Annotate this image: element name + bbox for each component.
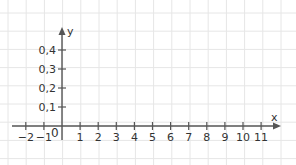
x-tick-label: −1: [36, 131, 52, 144]
x-tick-label: 1: [77, 131, 84, 144]
origin-label: 0: [51, 126, 59, 140]
y-tick-label: 0,1: [39, 101, 57, 114]
x-tick-label: −2: [18, 131, 34, 144]
x-tick-label: 3: [113, 131, 120, 144]
x-tick-label: 11: [254, 131, 268, 144]
y-tick-label: 0,4: [39, 44, 57, 57]
x-tick-label: 9: [221, 131, 228, 144]
x-tick-label: 5: [149, 131, 156, 144]
x-tick-label: 10: [236, 131, 250, 144]
x-tick-label: 4: [131, 131, 138, 144]
x-tick-label: 2: [95, 131, 102, 144]
y-tick-label: 0,3: [39, 63, 57, 76]
x-tick-label: 6: [167, 131, 174, 144]
x-tick-label: 8: [203, 131, 210, 144]
y-tick-label: 0,2: [39, 82, 57, 95]
x-tick-label: 7: [185, 131, 192, 144]
coordinate-system: x y 0 −2−11234567891011 0,10,20,30,4: [0, 0, 296, 165]
y-axis-label: y: [67, 25, 74, 38]
x-axis-label: x: [271, 111, 278, 124]
